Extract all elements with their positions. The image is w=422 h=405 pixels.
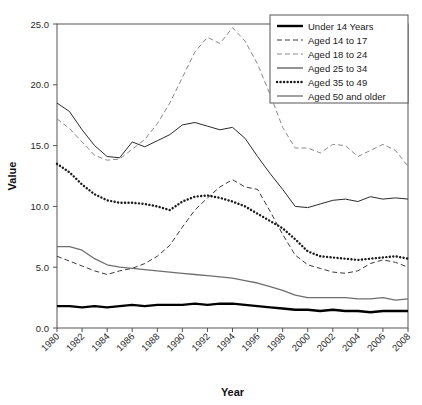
x-tick-label: 1984 [89, 331, 112, 354]
x-tick-label: 1980 [39, 331, 62, 354]
legend-label: Aged 18 to 24 [308, 49, 367, 60]
x-tick-label: 1986 [114, 331, 137, 354]
x-tick-label: 2004 [340, 331, 363, 354]
legend-label: Aged 35 to 49 [308, 77, 367, 88]
x-tick-label: 2002 [314, 331, 337, 354]
x-tick-label: 2000 [289, 331, 312, 354]
line-chart: 0.05.010.015.020.025.0198019821984198619… [0, 0, 422, 405]
x-tick-label: 1988 [139, 331, 162, 354]
x-tick-label: 1996 [239, 331, 262, 354]
legend-label: Under 14 Years [308, 21, 374, 32]
x-tick-label: 1990 [164, 331, 187, 354]
x-tick-label: 1982 [64, 331, 87, 354]
y-tick-label: 25.0 [31, 19, 50, 30]
legend-label: Aged 14 to 17 [308, 35, 367, 46]
x-tick-label: 2008 [390, 331, 413, 354]
x-axis-title: Year [221, 386, 245, 398]
y-tick-label: 20.0 [31, 79, 50, 90]
y-tick-label: 0.0 [36, 323, 49, 334]
chart-figure: 0.05.010.015.020.025.0198019821984198619… [0, 0, 422, 405]
x-tick-label: 1994 [214, 331, 237, 354]
y-tick-label: 15.0 [31, 140, 50, 151]
y-tick-label: 5.0 [36, 262, 49, 273]
x-tick-label: 1992 [189, 331, 212, 354]
x-tick-label: 1998 [264, 331, 287, 354]
y-tick-label: 10.0 [31, 201, 50, 212]
legend-label: Aged 25 to 34 [308, 63, 367, 74]
x-tick-label: 2006 [365, 331, 388, 354]
y-axis-title: Value [6, 162, 18, 191]
legend-label: Aged 50 and older [308, 91, 386, 102]
